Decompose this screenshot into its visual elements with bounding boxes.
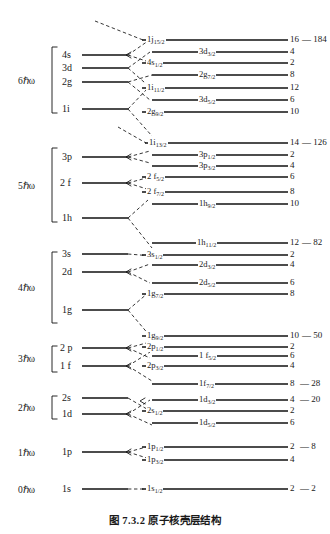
level-label-1g9: 1g9/2 [146, 331, 164, 341]
level-label-1i11: 1i11/2 [146, 83, 165, 93]
bracket-2hw [52, 396, 57, 419]
level-label-2f7: 2 f7/2 [146, 187, 165, 197]
occupancy-1g9: 10 [290, 331, 299, 340]
occupancy-3d3: 4 [290, 47, 295, 56]
subshell-label-1s: 1s [62, 483, 71, 494]
level-label-1d3: 1d3/2 [198, 395, 216, 405]
connector-2d-a [128, 264, 150, 272]
level-label-1h11: 1h11/2 [196, 238, 217, 248]
shell-model-diagram [0, 0, 330, 534]
occupancy-1g7: 8 [290, 289, 295, 298]
level-label-2s1: 2s1/2 [146, 406, 163, 416]
occupancy-1p1: 2 [290, 442, 295, 451]
occupancy-2p3: 4 [290, 361, 295, 370]
oscillator-brackets [52, 47, 57, 419]
occupancy-3p1: 2 [290, 150, 295, 159]
occupancy-1j15: 16 [290, 35, 299, 44]
occupancy-1f5: 6 [290, 351, 295, 360]
level-label-2g7: 2g7/2 [198, 70, 216, 80]
magic-number-20: — 20 [300, 395, 320, 404]
bracket-6hw [52, 47, 57, 113]
connector-1g-a [128, 293, 148, 310]
level-label-1g7: 1g7/2 [146, 289, 164, 299]
magic-number-82: — 82 [302, 238, 322, 247]
connector-4s-split [128, 41, 148, 55]
occupancy-2d3: 4 [290, 260, 295, 269]
magic-number-184: — 184 [302, 35, 327, 44]
oscillator-label-1hw: 1ℏω [18, 447, 35, 458]
bracket-3hw [52, 346, 57, 372]
subshell-label-2p: 2 p [60, 342, 73, 353]
subshell-label-1f: 1 f [60, 360, 71, 371]
level-label-2f5: 2 f5/2 [146, 172, 165, 182]
occupancy-1d3: 4 [290, 395, 295, 404]
connector-1h-b [128, 218, 152, 248]
subshell-label-2s: 2s [62, 392, 71, 403]
level-label-3p1: 3p1/2 [198, 150, 216, 160]
magic-number-126: — 126 [302, 138, 327, 147]
subshell-label-2d: 2d [62, 266, 72, 277]
connector-top-1j [95, 21, 143, 40]
level-label-2p1: 2p1/2 [146, 342, 164, 352]
occupancy-1h11: 12 [290, 238, 299, 247]
connector-2g-a [128, 75, 152, 82]
level-label-1f7: 1f7/2 [198, 379, 215, 389]
magic-number-8: — 8 [300, 442, 316, 451]
level-label-1p1: 1p1/2 [146, 442, 164, 452]
occupancy-3d5: 6 [290, 95, 295, 104]
occupancy-3p3: 4 [290, 161, 295, 170]
level-label-3d3: 3d3/2 [198, 47, 216, 57]
occupancy-2f5: 6 [290, 172, 295, 181]
subshell-label-1i: 1i [62, 103, 70, 114]
subshell-label-3p: 3p [62, 151, 72, 162]
occupancy-2g7: 8 [290, 70, 295, 79]
subshell-label-1g: 1g [62, 304, 72, 315]
level-label-1j15: 1j15/2 [146, 35, 166, 45]
occupancy-2d5: 6 [290, 278, 295, 287]
subshell-label-2f: 2 f [60, 177, 71, 188]
bracket-4hw [52, 252, 57, 323]
level-label-1h9: 1h9/2 [198, 199, 216, 209]
oscillator-label-6hw: 6ℏω [18, 75, 35, 86]
occupancy-1i11: 12 [290, 83, 299, 92]
level-label-1d5: 1d5/2 [198, 418, 216, 428]
oscillator-label-3hw: 3ℏω [18, 353, 35, 364]
level-label-1i13: 1i13/2 [148, 138, 168, 148]
oscillator-label-2hw: 2ℏω [18, 402, 35, 413]
subshell-label-4s: 4s [62, 49, 71, 60]
occupancy-1s1: 2 [290, 484, 295, 493]
level-label-3d5: 3d5/2 [198, 95, 216, 105]
level-label-2g9: 2g9/2 [146, 107, 164, 117]
magic-number-28: — 28 [300, 379, 320, 388]
level-label-3p3: 3p3/2 [198, 161, 216, 171]
occupancy-1i13: 14 [290, 138, 299, 147]
figure-caption: 图 7.3.2 原子核壳层结构 [0, 512, 330, 527]
subshell-label-1d: 1d [62, 408, 72, 419]
connector-2d-b [128, 272, 150, 283]
level-label-1s1: 1s1/2 [146, 484, 163, 494]
occupancy-4s1: 2 [290, 58, 295, 67]
subshell-label-3d: 3d [62, 62, 72, 73]
magic-number-2: — 2 [300, 484, 316, 493]
occupancy-1f7: 8 [290, 379, 295, 388]
shell-base-lines [82, 55, 128, 489]
occupancy-2f7: 8 [290, 187, 295, 196]
occupancy-1d5: 6 [290, 418, 295, 427]
subshell-label-3s: 3s [62, 248, 71, 259]
oscillator-label-0hw: 0ℏω [18, 484, 35, 495]
subshell-label-1h: 1h [62, 212, 72, 223]
level-label-2p3: 2p3/2 [146, 361, 164, 371]
level-label-4s1: 4s1/2 [146, 58, 163, 68]
connector-1i-a [128, 88, 148, 109]
arrow-2s [140, 398, 145, 404]
magic-number-50: — 50 [302, 331, 322, 340]
connector-1h-a [128, 200, 148, 218]
level-label-2d3: 2d3/2 [198, 260, 216, 270]
occupancy-1p3: 4 [290, 455, 295, 464]
level-label-1f5: 1 f5/2 [198, 351, 217, 361]
subshell-label-1p: 1p [62, 446, 72, 457]
shell-model-figure: 6ℏω 5ℏω 4ℏω 3ℏω 2ℏω 1ℏω 0ℏω 4s 3d 2g 1i … [0, 0, 330, 534]
subshell-label-2g: 2g [62, 76, 72, 87]
occupancy-2s1: 2 [290, 406, 295, 415]
occupancy-1h9: 10 [290, 199, 299, 208]
